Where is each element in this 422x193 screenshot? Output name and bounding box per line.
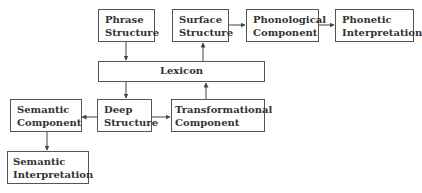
node-transformational-component: Transformational Component (171, 99, 265, 132)
node-label-line: Surface (179, 14, 228, 27)
node-surface-structure: Surface Structure (172, 9, 229, 42)
node-phonetic-interpretation: Phonetic Interpretation (335, 9, 414, 42)
node-label-line: Interpretation (342, 27, 413, 40)
node-label-line: Phrase (105, 14, 154, 27)
node-label-line: Component (175, 117, 264, 130)
node-lexicon: Lexicon (98, 61, 265, 82)
node-label-line: Structure (105, 27, 154, 40)
node-phonological-component: Phonological Component (246, 9, 319, 42)
node-phrase-structure: Phrase Structure (98, 9, 155, 42)
node-label-line: Semantic (13, 156, 88, 169)
node-label-line: Component (253, 27, 318, 40)
node-semantic-interpretation: Semantic Interpretation (7, 151, 89, 184)
node-label-line: Phonological (253, 14, 318, 27)
node-label-line: Component (17, 117, 81, 130)
node-label-line: Structure (179, 27, 228, 40)
grammar-model-diagram: Phrase Structure Surface Structure Phono… (0, 0, 422, 193)
node-label-line: Deep (104, 104, 151, 117)
node-label-line: Transformational (175, 104, 264, 117)
node-label-line: Structure (104, 117, 151, 130)
node-label-line: Semantic (17, 104, 81, 117)
node-label-line: Interpretation (13, 169, 88, 182)
node-semantic-component: Semantic Component (10, 99, 82, 132)
node-deep-structure: Deep Structure (97, 99, 152, 132)
node-label-line: Lexicon (160, 65, 203, 78)
node-label-line: Phonetic (342, 14, 413, 27)
